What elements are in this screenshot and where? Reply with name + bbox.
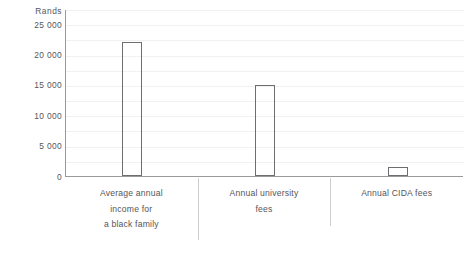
category-label-line: Annual university [198,186,331,202]
category-label-line: income for [65,202,198,218]
y-axis-tick-label: 5 000 [0,142,62,151]
bar [255,85,275,176]
category-label-line: Annual CIDA fees [330,186,463,202]
y-axis-tick-label: 20 000 [0,51,62,60]
y-axis-tick-label: 25 000 [0,21,62,30]
y-axis-tick-label: 15 000 [0,81,62,90]
bar-series [66,10,463,176]
y-axis-tick-label: 0 [0,173,62,182]
y-axis-unit-label: Rands [0,7,62,16]
category-label: Annual CIDA fees [330,186,463,202]
y-axis-labels: Rands 05 00010 00015 00020 00025 000 [0,0,62,187]
plot-area [65,10,463,177]
category-label-line: fees [198,202,331,218]
bar [122,42,142,176]
y-axis-tick-label: 10 000 [0,112,62,121]
bar [388,167,408,176]
x-axis-category-labels: Average annualincome fora black familyAn… [65,186,463,252]
category-label-line: a black family [65,217,198,233]
category-label: Average annualincome fora black family [65,186,198,233]
bar-chart: Rands 05 00010 00015 00020 00025 000 Ave… [0,0,471,256]
category-label: Annual universityfees [198,186,331,217]
category-label-line: Average annual [65,186,198,202]
